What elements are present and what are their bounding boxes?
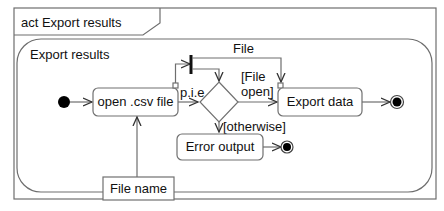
object-node-file-name-label: File name [110,181,167,196]
edge-fork-to-decision [192,69,219,81]
guard-otherwise: [otherwise] [223,119,286,134]
edge-label-file: File [233,41,254,56]
input-pin-export-data [278,83,283,88]
edge-label-pie: p.i.e [180,85,205,100]
frame-title: act Export results [21,15,122,30]
region-title: Export results [30,47,110,62]
action-error-output-label: Error output [186,139,255,154]
decision-node [200,82,238,122]
output-pin-open-csv [173,83,178,88]
edge-fork-to-export [192,58,281,82]
action-export-data-label: Export data [287,94,354,109]
edge-pin-to-fork [176,64,191,83]
final-node-export-inner [393,98,402,107]
guard-file-open-line2: open] [241,84,274,99]
guard-file-open-line1: [File [241,69,266,84]
final-node-error-inner [283,143,291,151]
initial-node [58,96,70,108]
action-open-csv-file-label: open .csv file [98,94,174,109]
activity-diagram: act Export results Export results open .… [0,0,444,211]
